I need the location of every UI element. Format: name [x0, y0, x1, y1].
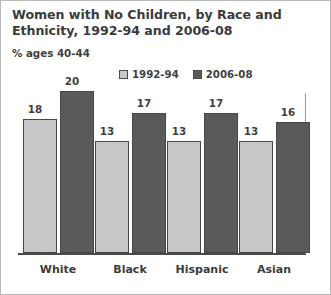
bar-value-asian-2006-08: 16 — [271, 106, 305, 118]
bar-value-white-2006-08: 20 — [55, 75, 89, 87]
bar-white-1992-94 — [23, 119, 57, 253]
bar-black-2006-08 — [132, 113, 166, 253]
bar-value-asian-1992-94: 13 — [234, 125, 268, 137]
bar-hispanic-1992-94 — [167, 141, 201, 253]
bar-white-2006-08 — [60, 91, 94, 253]
bar-hispanic-2006-08 — [204, 113, 238, 253]
bar-asian-1992-94 — [239, 141, 273, 253]
category-label-asian: Asian — [229, 263, 319, 276]
bar-value-hispanic-2006-08: 17 — [199, 97, 233, 109]
x-axis-line — [18, 253, 306, 255]
bar-asian-2006-08 — [276, 122, 310, 253]
bar-value-hispanic-1992-94: 13 — [162, 125, 196, 137]
plot-area: 18 20 13 17 13 17 13 16 White Black Hisp… — [1, 1, 331, 295]
bar-value-black-2006-08: 17 — [127, 97, 161, 109]
bar-value-black-1992-94: 13 — [90, 125, 124, 137]
bar-black-1992-94 — [95, 141, 129, 253]
chart-figure: Women with No Children, by Race and Ethn… — [0, 0, 331, 295]
bar-value-white-1992-94: 18 — [18, 103, 52, 115]
